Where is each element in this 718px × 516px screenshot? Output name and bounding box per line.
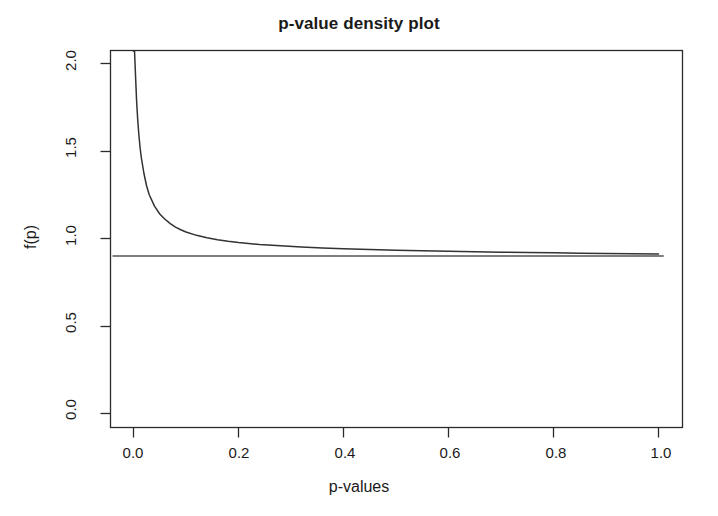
plot-canvas (0, 0, 718, 516)
y-axis-ticks (101, 64, 111, 414)
data-series-layer (113, 51, 664, 256)
density-curve (134, 51, 659, 254)
chart-figure: p-value density plot p-values f(p) 0.0 0… (0, 0, 718, 516)
plot-frame (111, 51, 683, 428)
x-axis-ticks (134, 428, 659, 438)
